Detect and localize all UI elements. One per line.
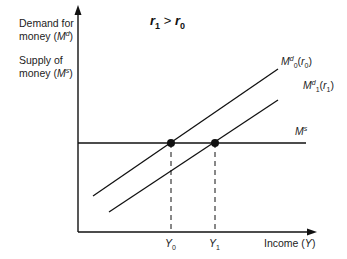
diagram-title: r1 > r0 [150, 13, 185, 28]
x-tick-y1: Y1 [209, 237, 220, 250]
y-label-line4-suffix: ) [69, 67, 73, 79]
y-label-line2-sym: M [57, 30, 66, 42]
x-tick1-sub: 1 [216, 244, 220, 251]
y-label-line3: Supply of [19, 54, 73, 67]
supply-sup: s [304, 125, 308, 132]
y-label-line2-prefix: money ( [19, 30, 57, 42]
supply-sym: M [295, 125, 304, 137]
x-tick0-sub: 0 [172, 244, 176, 251]
x-axis-label: Income (Y) [264, 237, 315, 250]
y-label-line4-prefix: money ( [19, 67, 57, 79]
curve0-sym: M [281, 55, 290, 67]
y-axis-label-supply: Supply of money (Ms) [19, 54, 73, 80]
x-tick0-sym: Y [165, 237, 172, 249]
y-label-line1: Demand for [19, 17, 74, 30]
title-r1-sub: 1 [155, 21, 160, 31]
y-label-line4: money (Ms) [19, 67, 73, 80]
x-label-sym: Y [305, 237, 312, 249]
curve1-sup: d [312, 79, 316, 86]
curve0-arg-sub: 0 [305, 62, 309, 69]
curve0-sub: 0 [294, 62, 298, 69]
y-label-line4-sym: M [57, 67, 66, 79]
curve0-sup: d [290, 55, 294, 62]
title-operator: > [164, 13, 172, 28]
y-label-line2-suffix: ) [70, 30, 74, 42]
curve-label-r1: Md1(r1) [303, 79, 334, 92]
equilibrium-point-0 [167, 139, 175, 147]
y-axis-label-demand: Demand for money (Md) [19, 17, 74, 43]
x-label-suffix: ) [312, 237, 316, 249]
curve1-arg-sub: 1 [327, 86, 331, 93]
x-label-prefix: Income ( [264, 237, 305, 249]
x-tick1-sym: Y [209, 237, 216, 249]
y-label-line2: money (Md) [19, 30, 74, 43]
money-demand-curve-r0 [93, 69, 278, 196]
x-axis-arrow-icon [307, 229, 317, 236]
curve-label-r0: Md0(r0) [281, 55, 312, 68]
curve1-sub: 1 [316, 86, 320, 93]
equilibrium-point-1 [211, 139, 219, 147]
curve1-sym: M [303, 79, 312, 91]
title-r0-sub: 0 [180, 21, 185, 31]
x-tick-y0: Y0 [165, 237, 176, 250]
supply-line-label: Ms [295, 125, 307, 138]
money-demand-curve-r1 [109, 100, 278, 212]
y-axis-arrow-icon [75, 5, 82, 15]
